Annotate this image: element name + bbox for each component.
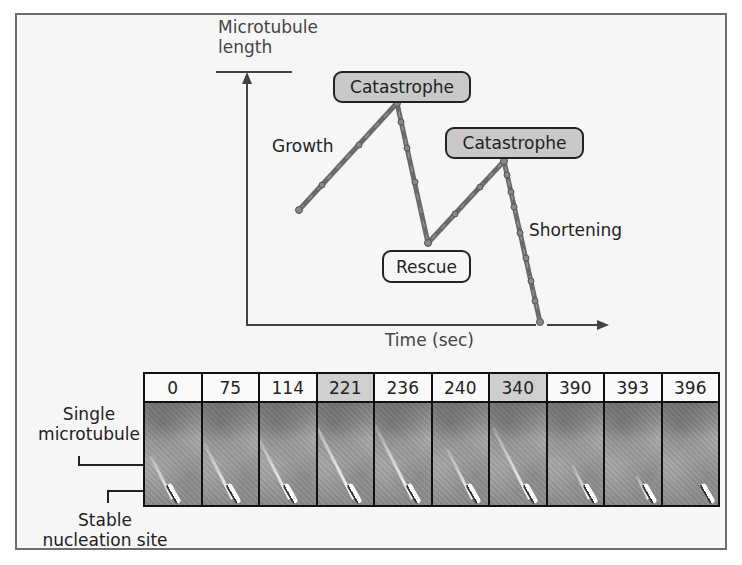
frame-4: 236 [375,374,431,505]
single-microtubule-line2: microtubule [37,424,141,444]
nucleation-seed [699,482,715,504]
nucleation-site-line1: Stable [30,510,180,530]
x-axis-label: Time (sec) [385,330,474,350]
frame-image [318,403,374,505]
frame-image [375,403,431,505]
frame-2: 114 [260,374,316,505]
x-axis-arrow-icon [597,320,609,330]
growth-label: Growth [272,136,334,156]
frame-8: 393 [605,374,661,505]
catastrophe-box-2: Catastrophe [445,127,584,159]
frame-time: 393 [605,374,661,403]
frame-time: 240 [433,374,489,403]
y-axis-label-line2: length [218,37,318,57]
frame-image [203,403,259,505]
nucleation-site-label: Stable nucleation site [30,510,180,550]
frame-time: 0 [145,374,201,403]
y-axis-label: Microtubule length [218,17,318,57]
frame-9: 396 [663,374,719,505]
frame-time: 396 [663,374,719,403]
frame-image [260,403,316,505]
frame-time: 390 [548,374,604,403]
frame-time: 221 [318,374,374,403]
frame-3: 221 [318,374,374,505]
frame-0: 0 [145,374,201,505]
single-microtubule-label: Single microtubule [37,404,141,444]
frame-time: 236 [375,374,431,403]
frame-time: 114 [260,374,316,403]
single-microtubule-line1: Single [37,404,141,424]
catastrophe-box-1: Catastrophe [333,71,471,103]
frame-time: 75 [203,374,259,403]
frame-6: 340 [490,374,546,505]
shortening-label: Shortening [529,220,622,240]
frame-image [433,403,489,505]
frame-image [663,403,719,505]
rescue-box: Rescue [382,250,471,283]
y-axis-arrow-icon [242,72,252,84]
timelapse-strip: 0 75 114 221 236 240 [143,372,720,507]
frame-time: 340 [490,374,546,403]
frame-7: 390 [548,374,604,505]
y-axis-label-line1: Microtubule [218,17,318,37]
frame-image [145,403,201,505]
frame-5: 240 [433,374,489,505]
frame-1: 75 [203,374,259,505]
frame-image [605,403,661,505]
frame-image [548,403,604,505]
nucleation-site-line2: nucleation site [30,530,180,550]
frame-image [490,403,546,505]
